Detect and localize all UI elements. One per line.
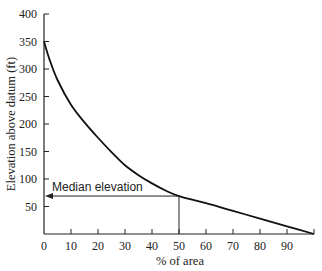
y-tick-label: 350 [19, 35, 37, 49]
y-tick-label: 250 [19, 90, 37, 104]
y-tick-label: 150 [19, 145, 37, 159]
x-tick-label: 50 [173, 239, 185, 253]
x-tick-label: 70 [227, 239, 239, 253]
x-tick-label: 80 [254, 239, 266, 253]
x-tick-label: 0 [41, 239, 47, 253]
y-tick-label: 300 [19, 62, 37, 76]
x-axis-ticks: 0102030405060708090 [41, 229, 293, 253]
x-tick-label: 60 [200, 239, 212, 253]
y-tick-label: 400 [19, 7, 37, 21]
y-tick-label: 100 [19, 172, 37, 186]
x-tick-label: 20 [92, 239, 104, 253]
x-tick-label: 30 [119, 239, 131, 253]
x-axis-title: % of area [156, 254, 204, 268]
y-tick-label: 50 [25, 200, 37, 214]
median-elevation-label: Median elevation [52, 180, 143, 194]
x-tick-label: 10 [65, 239, 77, 253]
y-axis-title: Elevation above datum (ft) [4, 57, 18, 191]
x-tick-label: 40 [146, 239, 158, 253]
x-tick-label: 90 [281, 239, 293, 253]
y-tick-label: 200 [19, 117, 37, 131]
hypsometric-chart: 50100150200250300350400 0102030405060708… [0, 0, 322, 271]
